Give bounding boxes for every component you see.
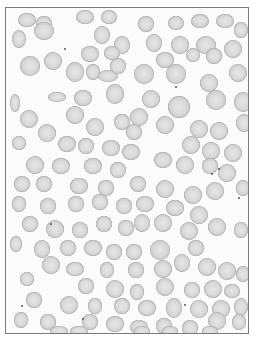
red-blood-cell	[26, 156, 44, 174]
red-blood-cell	[106, 280, 124, 298]
red-blood-cell	[110, 162, 126, 178]
red-blood-cell	[184, 282, 200, 298]
red-blood-cell	[84, 158, 102, 174]
red-blood-cell	[182, 136, 200, 154]
red-blood-cell	[202, 158, 218, 174]
red-blood-cell	[134, 64, 154, 84]
red-blood-cell	[26, 292, 42, 308]
red-blood-cell	[168, 16, 184, 30]
red-blood-cell	[150, 240, 170, 260]
red-blood-cell	[236, 180, 249, 196]
red-blood-cell	[156, 116, 174, 134]
red-blood-cell	[106, 244, 122, 260]
red-blood-cell	[116, 198, 132, 214]
red-blood-cell	[81, 46, 99, 62]
red-blood-cell	[134, 326, 150, 334]
red-blood-cell	[174, 254, 190, 272]
red-blood-cell	[190, 206, 208, 224]
red-blood-cell	[210, 122, 228, 140]
red-blood-cell	[106, 316, 124, 332]
red-blood-cell	[206, 90, 226, 110]
red-blood-cell	[78, 138, 94, 154]
red-blood-cell	[40, 198, 56, 214]
red-blood-cell	[20, 110, 38, 128]
microscopy-image-frame: Microscopy image of a blood smear showin…	[5, 7, 249, 334]
red-blood-cell	[84, 240, 102, 256]
red-blood-cell	[204, 280, 222, 298]
red-blood-cell	[20, 56, 40, 76]
red-blood-cell	[154, 152, 172, 168]
red-blood-cell	[166, 64, 186, 84]
red-blood-cell	[14, 176, 30, 192]
red-blood-cell	[166, 200, 184, 216]
red-blood-cell	[96, 216, 112, 232]
red-blood-cell	[224, 40, 242, 58]
red-blood-cell	[234, 298, 248, 316]
platelet-dot	[21, 305, 23, 307]
red-blood-cell	[156, 180, 174, 198]
platelet-dot	[82, 318, 84, 320]
red-blood-cell	[122, 144, 140, 160]
red-blood-cell	[60, 296, 78, 314]
platelet-dot	[175, 86, 177, 88]
red-blood-cell	[229, 64, 247, 82]
red-blood-cell	[68, 196, 84, 212]
red-blood-cell	[92, 194, 108, 210]
red-blood-cell	[72, 222, 88, 238]
red-blood-cell	[66, 62, 84, 82]
red-blood-cell	[66, 106, 84, 124]
red-blood-cell	[14, 312, 28, 328]
red-blood-cell	[216, 14, 234, 28]
red-blood-cell	[130, 176, 146, 192]
red-blood-cell	[234, 92, 249, 112]
red-blood-cell	[234, 22, 248, 38]
red-blood-cell	[166, 298, 182, 318]
red-blood-cell	[190, 300, 208, 318]
red-blood-cell	[10, 236, 22, 252]
red-blood-cell	[36, 176, 52, 192]
red-blood-cell	[218, 164, 236, 182]
red-blood-cell	[52, 158, 70, 174]
red-blood-cell	[50, 326, 68, 334]
red-blood-cell	[142, 90, 160, 108]
red-blood-cell	[20, 272, 34, 286]
red-blood-cell	[206, 182, 224, 200]
platelet-dot	[184, 304, 186, 306]
red-blood-cell	[188, 240, 204, 256]
red-blood-cell	[184, 186, 202, 204]
red-blood-cell	[22, 216, 38, 232]
red-blood-cell	[202, 326, 218, 334]
red-blood-cell	[234, 222, 248, 238]
red-blood-cell	[236, 266, 249, 282]
red-blood-cell	[78, 278, 94, 294]
red-blood-cell	[66, 262, 84, 276]
red-blood-cell	[218, 262, 236, 280]
red-blood-cell	[236, 114, 249, 132]
red-blood-cell	[12, 30, 26, 48]
red-blood-cell	[182, 320, 198, 334]
red-blood-cell	[224, 284, 240, 298]
red-blood-cell	[38, 124, 56, 142]
red-blood-cell	[42, 256, 60, 274]
red-blood-cell	[198, 258, 216, 276]
red-blood-cell	[48, 92, 66, 102]
platelet-dot	[50, 223, 52, 225]
red-blood-cell	[88, 298, 102, 314]
platelet-dot	[211, 173, 213, 175]
red-blood-cell	[224, 144, 242, 162]
red-blood-cell	[34, 22, 54, 40]
red-blood-cell	[206, 48, 222, 64]
red-blood-cell	[168, 96, 190, 118]
red-blood-cell	[146, 34, 162, 52]
red-blood-cell	[126, 244, 142, 260]
red-blood-cell	[58, 136, 76, 152]
red-blood-cell	[156, 278, 174, 296]
red-blood-cell	[100, 262, 114, 278]
red-blood-cell	[136, 196, 154, 212]
red-blood-cell	[46, 220, 64, 238]
red-blood-cell	[74, 90, 92, 106]
red-blood-cell	[101, 10, 117, 24]
red-blood-cell	[86, 118, 104, 136]
platelet-dot	[238, 197, 240, 199]
platelet-dot	[64, 48, 66, 50]
